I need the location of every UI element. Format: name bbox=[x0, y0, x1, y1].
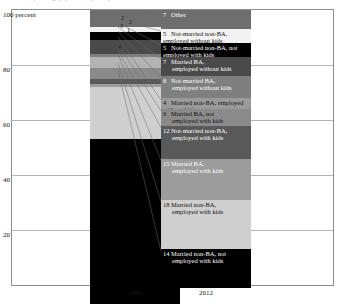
segment-label-nm-nonba-emp-kids-2012: 12 Not-married non-BA,employed with kids bbox=[163, 127, 249, 141]
leader-callout-0: 2 bbox=[121, 15, 124, 21]
segment-m-nonba-notemp-kids-2012[interactable]: 14 Married non-BA, notemployed with kids bbox=[161, 249, 251, 288]
segment-label-nm-nonba-notemp-kids-2012: 5 Not-married non-BA, not employed with … bbox=[163, 44, 249, 57]
y-tick-20: 20 bbox=[3, 231, 10, 239]
segment-nm-nonba-notemp-kids-2012[interactable]: 5 Not-married non-BA, not employed with … bbox=[161, 43, 251, 57]
y-tick-60: 60 bbox=[3, 121, 10, 129]
segment-m-ba-emp-kids-2012[interactable]: 15 Married BA,employed with kids bbox=[161, 159, 251, 200]
leader-callout-2: 3 bbox=[120, 23, 123, 29]
segment-label-nm-ba-emp-nokids-2012: 8 Not-married BA,employed without kids bbox=[163, 77, 249, 91]
segment-nm-nonba-emp-nokids-2012[interactable]: 5 Not-married non-BA, employed without k… bbox=[161, 29, 251, 43]
x-axis-label-2012: 2012 bbox=[161, 289, 251, 297]
leader-callout-4: 4 bbox=[118, 44, 121, 50]
segment-m-ba-emp-nokids-2012[interactable]: 7 Married BA,employed without kids bbox=[161, 57, 251, 76]
segment-m-ba-notemp-kids-2012[interactable]: 6 Married BA, notemployed with kids bbox=[161, 109, 251, 126]
bar-2012[interactable]: 7 Other5 Not-married non-BA, employed wi… bbox=[161, 10, 251, 285]
segment-m-nonba-emp-kids-2012[interactable]: 18 Married non-BA,employed with kids bbox=[161, 200, 251, 250]
segment-nm-ba-emp-nokids-2012[interactable]: 8 Not-married BA,employed without kids bbox=[161, 76, 251, 98]
segment-label-m-ba-notemp-kids-2012: 6 Married BA, notemployed with kids bbox=[163, 110, 249, 124]
segment-label-m-nonba-emp-nokids-2012: 4 Married non-BA, employed without kids bbox=[163, 99, 249, 109]
segment-label-m-ba-emp-kids-2012: 15 Married BA,employed with kids bbox=[163, 160, 249, 174]
y-tick-100: 100 percent bbox=[3, 11, 36, 19]
segment-other-2012[interactable]: 7 Other bbox=[161, 10, 251, 29]
segment-label-nm-nonba-emp-nokids-2012: 5 Not-married non-BA, employed without k… bbox=[163, 30, 249, 43]
segment-nm-nonba-emp-kids-2012[interactable]: 12 Not-married non-BA,employed with kids bbox=[161, 126, 251, 159]
y-tick-80: 80 bbox=[3, 66, 10, 74]
segment-m-nonba-emp-nokids-2012[interactable]: 4 Married non-BA, employed without kids bbox=[161, 98, 251, 109]
y-tick-40: 40 bbox=[3, 176, 10, 184]
leader-callout-1: 2 bbox=[129, 19, 132, 25]
segment-label-m-nonba-notemp-kids-2012: 14 Married non-BA, notemployed with kids bbox=[163, 250, 249, 264]
segment-label-other-2012: 7 Other bbox=[163, 11, 249, 18]
leader-callout-3: 1 bbox=[127, 27, 130, 33]
stacked-bar-chart: Share of prime-age population, by family… bbox=[0, 0, 346, 304]
segment-label-m-nonba-emp-kids-2012: 18 Married non-BA,employed with kids bbox=[163, 201, 249, 215]
chart-title-cropped: Share of prime-age population, by family… bbox=[12, 0, 332, 3]
segment-label-m-ba-emp-nokids-2012: 7 Married BA,employed without kids bbox=[163, 58, 249, 72]
